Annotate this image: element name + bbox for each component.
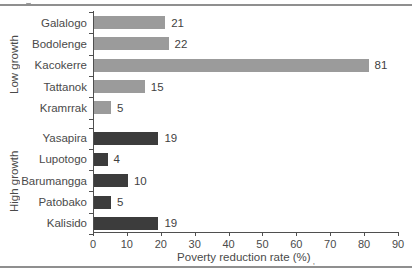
- y-axis-tick: [89, 149, 93, 150]
- bar-Yasapira: [94, 132, 158, 145]
- category-label-Barumangga: Barumangga: [0, 174, 87, 188]
- y-axis-tick: [89, 119, 93, 120]
- x-tick-label-30: 30: [180, 238, 210, 250]
- y-axis-tick: [89, 170, 93, 171]
- y-axis-tick: [89, 191, 93, 192]
- x-axis-tick: [127, 232, 128, 236]
- x-axis-tick: [229, 232, 230, 236]
- x-axis-title-text: Poverty reduction rate (%): [177, 251, 311, 263]
- y-axis-tick: [89, 213, 93, 214]
- x-tick-label-50: 50: [247, 238, 277, 250]
- x-axis-line: [93, 232, 399, 233]
- x-axis-footnote-mark: ,: [313, 257, 315, 266]
- x-axis-tick: [364, 232, 365, 236]
- value-label-Kacokerre: 81: [375, 58, 388, 72]
- bar-chart-figure: Poverty reduction rate (%), Low growthGa…: [0, 0, 412, 275]
- category-label-Lupotogo: Lupotogo: [0, 152, 87, 166]
- value-label-Yasapira: 19: [164, 131, 177, 145]
- category-label-Bodolenge: Bodolenge: [0, 37, 87, 51]
- y-axis-tick: [89, 12, 93, 13]
- y-axis-tick: [89, 55, 93, 56]
- x-tick-label-60: 60: [281, 238, 311, 250]
- value-label-Galalogo: 21: [171, 16, 184, 30]
- x-tick-label-10: 10: [112, 238, 142, 250]
- category-label-Kacokerre: Kacokerre: [0, 58, 87, 72]
- bar-Lupotogo: [94, 153, 108, 166]
- x-tick-label-80: 80: [349, 238, 379, 250]
- bar-Barumangga: [94, 174, 128, 187]
- y-axis-tick: [89, 97, 93, 98]
- x-axis-tick: [262, 232, 263, 236]
- y-axis-tick: [89, 76, 93, 77]
- x-tick-label-90: 90: [383, 238, 412, 250]
- bar-Kacokerre: [94, 59, 369, 72]
- bar-Patobako: [94, 196, 111, 209]
- value-label-Kalisido: 19: [164, 216, 177, 230]
- bar-Tattanok: [94, 80, 145, 93]
- x-axis-tick: [195, 232, 196, 236]
- bar-Kramrrak: [94, 101, 111, 114]
- value-label-Kramrrak: 5: [117, 101, 123, 115]
- x-tick-label-40: 40: [214, 238, 244, 250]
- figure-top-rule: [0, 4, 412, 6]
- x-axis-title: Poverty reduction rate (%),: [93, 251, 399, 266]
- x-axis-tick: [93, 232, 94, 236]
- x-axis-tick: [330, 232, 331, 236]
- value-label-Bodolenge: 22: [175, 37, 188, 51]
- category-label-Galalogo: Galalogo: [0, 16, 87, 30]
- x-tick-label-20: 20: [146, 238, 176, 250]
- y-axis-tick: [89, 128, 93, 129]
- bar-Galalogo: [94, 16, 165, 29]
- category-label-Kalisido: Kalisido: [0, 216, 87, 230]
- category-label-Patobako: Patobako: [0, 195, 87, 209]
- value-label-Lupotogo: 4: [114, 152, 120, 166]
- figure-bottom-rule: [0, 266, 412, 268]
- x-tick-label-0: 0: [78, 238, 108, 250]
- x-tick-label-70: 70: [315, 238, 345, 250]
- value-label-Patobako: 5: [117, 195, 123, 209]
- y-axis-tick: [89, 33, 93, 34]
- category-label-Kramrrak: Kramrrak: [0, 101, 87, 115]
- x-axis-tick: [161, 232, 162, 236]
- category-label-Yasapira: Yasapira: [0, 131, 87, 145]
- x-axis-tick: [296, 232, 297, 236]
- value-label-Tattanok: 15: [151, 80, 164, 94]
- value-label-Barumangga: 10: [134, 174, 147, 188]
- bar-Bodolenge: [94, 37, 169, 50]
- bar-Kalisido: [94, 217, 158, 230]
- category-label-Tattanok: Tattanok: [0, 80, 87, 94]
- x-axis-tick: [398, 232, 399, 236]
